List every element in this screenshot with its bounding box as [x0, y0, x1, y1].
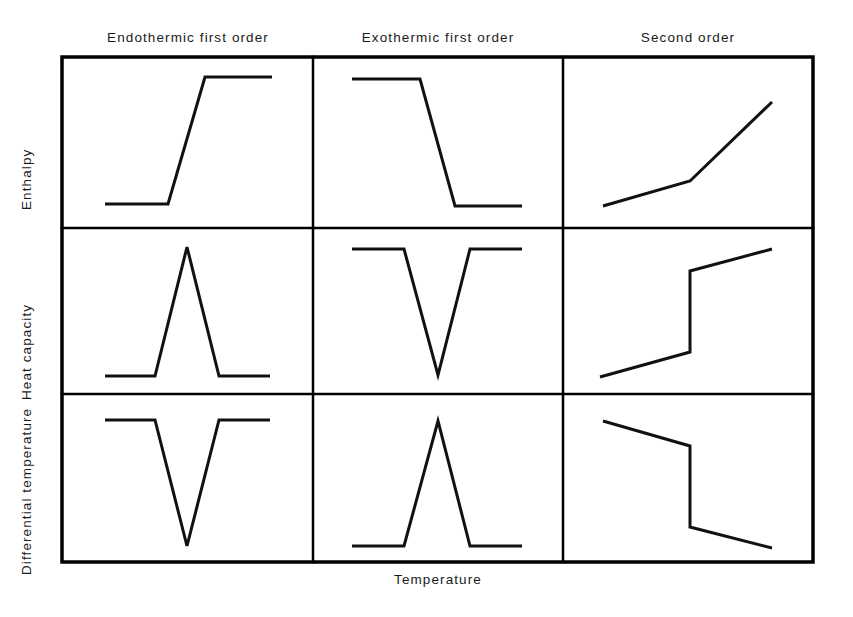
curve-slope-change-up-2: [603, 102, 772, 206]
thermal-analysis-figure: Endothermic first order Exothermic first…: [0, 0, 853, 617]
curve-peak-up-7: [352, 421, 522, 546]
curve-step-up-0: [105, 77, 272, 204]
curve-peak-down-4: [352, 249, 522, 375]
grid-outer-border: [62, 57, 813, 562]
curve-peak-down-6: [105, 420, 270, 546]
curve-jump-up-5: [600, 249, 772, 377]
curve-lines: [105, 77, 772, 548]
curve-step-down-1: [352, 79, 522, 206]
curve-jump-down-8: [603, 421, 772, 548]
curve-peak-up-3: [105, 247, 270, 376]
grid-lines: [62, 57, 813, 562]
plot-grid-svg: [0, 0, 853, 617]
